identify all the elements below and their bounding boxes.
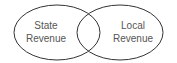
- state-label-line1: State: [34, 20, 58, 31]
- local-label-line1: Local: [121, 20, 145, 31]
- local-label-line2: Revenue: [113, 33, 153, 44]
- venn-diagram: State Revenue Local Revenue: [0, 0, 177, 63]
- state-label-line2: Revenue: [26, 33, 66, 44]
